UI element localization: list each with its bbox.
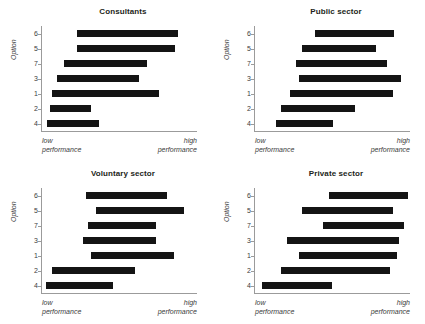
range-bar <box>299 252 397 259</box>
range-bar <box>96 207 185 214</box>
chart-title: Public sector <box>213 7 425 16</box>
y-axis-line <box>254 188 255 293</box>
chart-title: Consultants <box>0 7 212 16</box>
x-axis-caption-high-line1: high <box>158 136 197 145</box>
x-axis-caption-low-line2: performance <box>255 145 294 154</box>
y-axis-tick <box>38 94 41 95</box>
y-axis-tick-label: 3 <box>28 237 38 244</box>
x-axis-caption-low: lowperformance <box>42 136 81 154</box>
y-axis-tick <box>38 226 41 227</box>
range-bar <box>281 267 390 274</box>
plot-area: Option6573124lowperformancehighperforman… <box>254 26 410 131</box>
y-axis-tick-label: 7 <box>241 60 251 67</box>
y-axis-line <box>254 26 255 131</box>
y-axis-tick-label: 2 <box>241 267 251 274</box>
x-axis-caption-low-line1: low <box>255 136 294 145</box>
y-axis-title: Option <box>223 39 230 60</box>
y-axis-tick-label: 2 <box>241 105 251 112</box>
y-axis-tick-label: 4 <box>28 120 38 127</box>
range-bar <box>91 252 174 259</box>
y-axis-tick-label: 7 <box>241 222 251 229</box>
range-bar <box>262 282 332 289</box>
y-axis-tick <box>251 226 254 227</box>
x-axis-line <box>41 131 197 132</box>
y-axis-tick <box>38 109 41 110</box>
y-axis-tick-label: 5 <box>241 207 251 214</box>
chart-title: Private sector <box>213 169 425 178</box>
y-axis-tick <box>38 256 41 257</box>
y-axis-tick-label: 6 <box>28 192 38 199</box>
plot-area: Option6573124lowperformancehighperforman… <box>41 188 197 293</box>
y-axis-tick <box>38 241 41 242</box>
x-axis-caption-low-line1: low <box>42 136 81 145</box>
x-axis-caption-high-line1: high <box>158 298 197 307</box>
chart-panel-voluntary-sector: Voluntary sectorOption6573124lowperforma… <box>0 162 212 324</box>
x-axis-caption-low: lowperformance <box>255 298 294 316</box>
plot-area: Option6573124lowperformancehighperforman… <box>41 26 197 131</box>
y-axis-tick <box>38 34 41 35</box>
y-axis-tick-label: 7 <box>28 60 38 67</box>
x-axis-caption-low-line2: performance <box>42 307 81 316</box>
y-axis-tick-label: 4 <box>28 282 38 289</box>
range-bar <box>52 90 160 97</box>
x-axis-caption-high: highperformance <box>158 136 197 154</box>
chart-panel-public-sector: Public sectorOption6573124lowperformance… <box>213 0 425 162</box>
y-axis-tick-label: 6 <box>241 192 251 199</box>
x-axis-caption-low-line1: low <box>42 298 81 307</box>
y-axis-tick <box>251 241 254 242</box>
y-axis-tick <box>251 211 254 212</box>
x-axis-caption-high-line1: high <box>371 298 410 307</box>
y-axis-tick-label: 7 <box>28 222 38 229</box>
y-axis-tick <box>251 64 254 65</box>
x-axis-caption-high-line2: performance <box>158 145 197 154</box>
range-bar <box>77 45 175 52</box>
range-bar <box>290 90 393 97</box>
y-axis-tick <box>38 64 41 65</box>
chart-panel-private-sector: Private sectorOption6573124lowperformanc… <box>213 162 425 324</box>
range-bar <box>47 120 99 127</box>
y-axis-tick <box>251 256 254 257</box>
y-axis-tick <box>251 109 254 110</box>
x-axis-caption-high-line1: high <box>371 136 410 145</box>
range-bar <box>296 60 387 67</box>
x-axis-line <box>41 293 197 294</box>
range-bar <box>281 105 356 112</box>
y-axis-tick <box>251 271 254 272</box>
range-bar <box>323 222 404 229</box>
x-axis-caption-high: highperformance <box>158 298 197 316</box>
y-axis-tick <box>38 211 41 212</box>
x-axis-caption-low-line2: performance <box>255 307 294 316</box>
y-axis-tick-label: 3 <box>241 237 251 244</box>
range-bar <box>88 222 157 229</box>
y-axis-tick-label: 2 <box>28 267 38 274</box>
y-axis-tick <box>251 79 254 80</box>
range-bar <box>302 45 375 52</box>
y-axis-tick <box>251 49 254 50</box>
y-axis-tick-label: 2 <box>28 105 38 112</box>
x-axis-caption-high: highperformance <box>371 136 410 154</box>
y-axis-tick-label: 3 <box>28 75 38 82</box>
y-axis-tick <box>38 49 41 50</box>
range-bar <box>64 60 147 67</box>
range-bar <box>83 237 156 244</box>
x-axis-line <box>254 131 410 132</box>
x-axis-caption-low: lowperformance <box>42 298 81 316</box>
y-axis-tick-label: 4 <box>241 282 251 289</box>
y-axis-tick <box>251 196 254 197</box>
plot-area: Option6573124lowperformancehighperforman… <box>254 188 410 293</box>
range-bar <box>299 75 400 82</box>
y-axis-tick <box>251 34 254 35</box>
y-axis-tick-label: 6 <box>28 30 38 37</box>
range-bar <box>57 75 140 82</box>
range-bar <box>86 192 167 199</box>
range-bar <box>315 30 395 37</box>
x-axis-caption-high: highperformance <box>371 298 410 316</box>
chart-title: Voluntary sector <box>0 169 212 178</box>
y-axis-tick-label: 1 <box>241 252 251 259</box>
range-bar <box>329 192 409 199</box>
y-axis-tick <box>251 286 254 287</box>
range-bar <box>50 105 91 112</box>
y-axis-tick <box>38 286 41 287</box>
x-axis-caption-low-line1: low <box>255 298 294 307</box>
range-bar <box>302 207 393 214</box>
